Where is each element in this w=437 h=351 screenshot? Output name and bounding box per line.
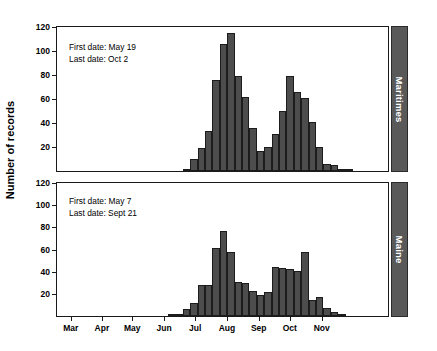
histogram-bar [205,131,212,171]
panel-maritimes: First date: May 19Last date: Oct 2 [56,26,389,172]
histogram-bar [190,303,197,316]
y-tick-label: 80 [20,70,50,80]
x-tick-label: Jun [156,323,171,333]
histogram-bar [316,147,323,171]
y-axis-title: Number of records [2,0,18,300]
x-tick-label: Oct [283,323,297,333]
histogram-bar [249,128,256,171]
histogram-bar [257,151,264,171]
annotation-line: Last date: Oct 2 [69,53,136,65]
histogram-bar [220,231,227,316]
y-tick-mark [52,75,56,76]
y-tick-label: 60 [20,94,50,104]
y-tick-mark [52,27,56,28]
x-tick-mark [71,317,72,321]
histogram-bar [205,285,212,316]
histogram-bar [183,309,190,316]
y-tick-mark [52,272,56,273]
x-tick-mark [259,317,260,321]
x-tick-label: May [124,323,141,333]
y-tick-label: 40 [20,118,50,128]
histogram-bar [242,97,249,171]
y-tick-label: 100 [20,200,50,210]
annotation-maine: First date: May 7Last date: Sept 21 [69,195,137,219]
histogram-bar [286,269,293,316]
histogram-bar [323,164,330,171]
annotation-line: Last date: Sept 21 [69,207,137,219]
x-tick-label: Sep [251,323,267,333]
x-tick-mark [195,317,196,321]
y-tick-mark [52,123,56,124]
y-tick-mark [52,99,56,100]
histogram-bar [279,111,286,171]
strip-label-maritimes: Maritimes [391,26,408,172]
histogram-bar [264,147,271,171]
histogram-bar [212,80,219,171]
x-tick-mark [290,317,291,321]
histogram-bar [316,297,323,316]
histogram-bar [235,282,242,316]
y-tick-mark [52,250,56,251]
y-tick-label: 120 [20,178,50,188]
histogram-bar [249,291,256,316]
y-tick-label: 80 [20,222,50,232]
histogram-bar [220,44,227,171]
y-tick-label: 60 [20,245,50,255]
histogram-bar [346,169,353,171]
histogram-bar [168,314,175,316]
x-tick-mark [102,317,103,321]
strip-label-maine: Maine [391,182,408,317]
x-tick-label: Mar [63,323,78,333]
histogram-bar [242,283,249,316]
y-tick-label: 120 [20,22,50,32]
y-tick-label: 20 [20,142,50,152]
histogram-bar [338,169,345,171]
histogram-bar [301,98,308,171]
histogram-bar [279,268,286,316]
histogram-bar [272,134,279,171]
y-tick-label: 100 [20,46,50,56]
y-tick-mark [52,183,56,184]
y-tick-mark [52,294,56,295]
histogram-bar [264,292,271,316]
y-tick-mark [52,205,56,206]
histogram-bar [227,33,234,171]
panel-maine: First date: May 7Last date: Sept 21 [56,182,389,317]
histogram-bar [331,165,338,171]
histogram-bar [294,271,301,316]
x-tick-mark [132,317,133,321]
x-tick-label: Aug [219,323,236,333]
histogram-bar [338,314,345,316]
x-tick-mark [227,317,228,321]
histogram-bar [309,122,316,171]
histogram-bar [198,148,205,171]
figure-panel-chart: Number of records First date: May 19Last… [0,0,437,351]
annotation-line: First date: May 19 [69,41,136,53]
histogram-bar [323,308,330,316]
histogram-bar [286,76,293,171]
histogram-bar [235,76,242,171]
histogram-bar [183,169,190,171]
x-tick-mark [164,317,165,321]
y-tick-mark [52,227,56,228]
histogram-bar [272,267,279,316]
x-tick-label: Nov [314,323,330,333]
histogram-bar [212,248,219,316]
annotation-maritimes: First date: May 19Last date: Oct 2 [69,41,136,65]
x-tick-label: Apr [95,323,110,333]
y-tick-label: 40 [20,267,50,277]
histogram-bar [190,159,197,171]
y-tick-mark [52,51,56,52]
histogram-bar [257,295,264,316]
y-tick-label: 20 [20,289,50,299]
y-tick-mark [52,147,56,148]
x-tick-mark [322,317,323,321]
histogram-bar [331,312,338,316]
x-tick-label: Jul [189,323,201,333]
annotation-line: First date: May 7 [69,195,137,207]
histogram-bar [309,300,316,316]
histogram-bar [294,92,301,171]
histogram-bar [198,285,205,316]
histogram-bar [301,252,308,316]
histogram-bar [227,252,234,316]
